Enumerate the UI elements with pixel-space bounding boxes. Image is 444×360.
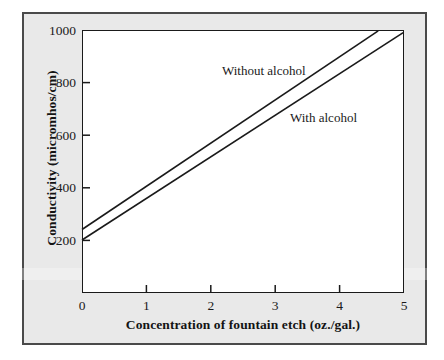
x-axis-title: Concentration of fountain etch (oz./gal.… [82,317,404,333]
series-label-with-alcohol: With alcohol [290,111,357,124]
x-tick-label-2: 2 [196,299,226,313]
series-line-without-alcohol [82,31,378,230]
x-axis-ticks [146,285,339,293]
x-tick-label-3: 3 [260,299,290,313]
series-label-without-alcohol: Without alcohol [222,64,306,77]
x-tick-label-4: 4 [325,299,355,313]
x-axis-tick-labels: 0 1 2 3 4 5 [0,299,444,319]
x-tick-label-1: 1 [131,299,161,313]
figure-root: 1000 800 600 400 200 0 1 2 3 4 5 Concent… [0,0,444,360]
x-tick-label-0: 0 [67,299,97,313]
x-tick-label-5: 5 [389,299,419,313]
y-axis-ticks [82,83,90,241]
y-axis-title: Conductivity (micromhos/cm) [44,18,60,298]
